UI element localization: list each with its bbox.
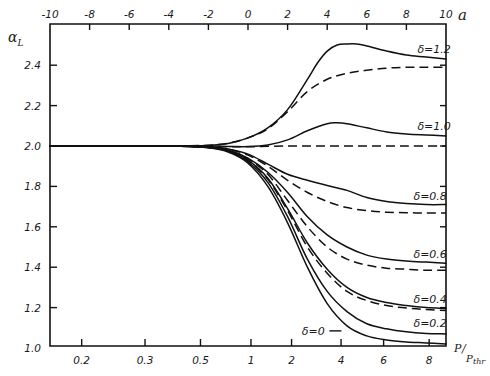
curves [50, 44, 446, 344]
bottom-tick-label: 0.5 [192, 354, 209, 366]
top-tick-label: -8 [84, 8, 95, 20]
labels: δ=1.2δ=1.0δ=0.8δ=0.6δ=0.4δ=0.2δ=0 [302, 43, 451, 338]
y-axis-title: αL [8, 29, 23, 48]
top-tick-label: 10 [439, 8, 453, 20]
bottom-tick-label: 8 [426, 354, 433, 366]
series-delta-1-2 [50, 44, 446, 146]
top-tick-label: 0 [245, 8, 252, 20]
curve-label-delta-0-4: δ=0.4 [413, 293, 446, 306]
series-delta-0-4-dashed [50, 146, 446, 311]
bottom-tick-label: 1 [248, 354, 255, 366]
bottom-tick-label: 0.3 [137, 354, 154, 366]
y-tick-label: 2.0 [24, 140, 41, 152]
bottom-axis-title: P / P thr [453, 342, 486, 366]
y-tick-label: 1.8 [24, 180, 41, 192]
top-tick-label: 6 [363, 8, 370, 20]
top-tick-label: 2 [284, 8, 291, 20]
chart: -10-8-6-4-202468101.01.21.41.61.82.02.22… [0, 0, 490, 376]
y-tick-label: 1.6 [24, 221, 41, 233]
axes: -10-8-6-4-202468101.01.21.41.61.82.02.22… [24, 8, 453, 366]
series-delta-0-8-dashed [50, 146, 446, 213]
curve-label-delta-0: δ=0 [302, 325, 325, 338]
y-tick-label: 1.0 [24, 342, 41, 354]
y-tick-label: 1.2 [24, 302, 41, 314]
series-delta-1-2-dashed [50, 67, 446, 146]
bottom-tick-label: 2 [288, 354, 295, 366]
svg-text:P: P [465, 353, 473, 364]
curve-label-delta-0-6: δ=0.6 [413, 248, 446, 261]
curve-label-delta-1-2: δ=1.2 [417, 43, 450, 56]
top-tick-label: -10 [41, 8, 58, 20]
series-delta-1-0 [50, 123, 446, 147]
curve-label-delta-0-2: δ=0.2 [413, 317, 446, 330]
svg-text:P: P [453, 342, 462, 355]
curve-label-delta-0-8: δ=0.8 [413, 190, 446, 203]
series-delta-0-4 [50, 146, 446, 309]
bottom-tick-label: 4 [338, 354, 345, 366]
y-tick-label: 2.2 [24, 100, 41, 112]
top-tick-label: 8 [403, 8, 410, 20]
top-tick-label: -4 [164, 8, 174, 20]
top-tick-label: -2 [203, 8, 214, 20]
top-axis-title: a [458, 6, 467, 24]
plot-frame [50, 24, 446, 346]
y-tick-label: 2.4 [24, 59, 41, 71]
top-tick-label: -6 [124, 8, 135, 20]
top-tick-label: 4 [324, 8, 331, 20]
svg-text:thr: thr [473, 357, 486, 366]
series-delta-0 [50, 146, 446, 344]
curve-label-delta-1-0: δ=1.0 [417, 120, 450, 133]
series-delta-0-6-dashed [50, 146, 446, 270]
y-tick-label: 1.4 [24, 261, 41, 273]
bottom-tick-label: 6 [380, 354, 387, 366]
bottom-tick-label: 0.2 [73, 354, 90, 366]
